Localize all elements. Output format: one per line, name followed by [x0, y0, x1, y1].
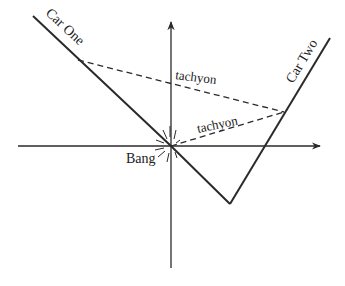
- car-one-worldline: [33, 16, 230, 204]
- tachyon-upper-label: tachyon: [175, 67, 218, 87]
- bang-label: Bang: [126, 151, 156, 166]
- car-two-worldline: [230, 38, 330, 204]
- tachyon-lower-label: tachyon: [196, 113, 240, 136]
- spacetime-diagram: Car One Car Two tachyon tachyon Bang: [0, 0, 345, 286]
- car-two-label: Car Two: [283, 37, 321, 86]
- car-one-label: Car One: [43, 5, 88, 48]
